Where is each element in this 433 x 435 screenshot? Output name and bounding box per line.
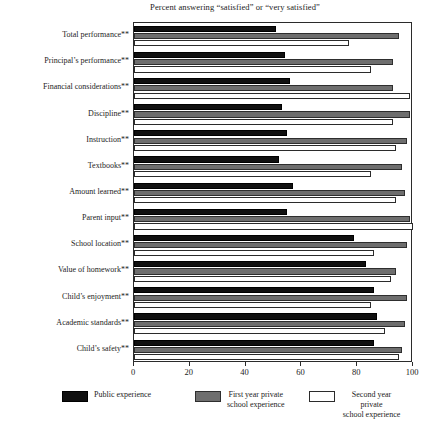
- category-axis-labels: Total performance**Principal’s performan…: [0, 22, 129, 362]
- bar: [134, 156, 279, 162]
- bar: [134, 59, 393, 65]
- x-tick-mark: [133, 362, 134, 366]
- bar: [134, 138, 407, 144]
- bar: [134, 78, 290, 84]
- bar: [134, 302, 371, 308]
- category-label: Parent input**: [0, 213, 129, 222]
- bar: [134, 145, 396, 151]
- category-label: Amount learned**: [0, 187, 129, 196]
- bar: [134, 313, 377, 319]
- bar-group: [134, 235, 411, 256]
- x-tick-mark: [356, 362, 357, 366]
- bar: [134, 85, 393, 91]
- bar: [134, 197, 396, 203]
- bar: [134, 26, 276, 32]
- bar: [134, 287, 374, 293]
- x-tick-label: 20: [174, 367, 204, 377]
- bar-group: [134, 52, 411, 73]
- x-tick-mark: [245, 362, 246, 366]
- bar: [134, 321, 405, 327]
- bar-group: [134, 287, 411, 308]
- category-label: Total performance**: [0, 30, 129, 39]
- legend-swatch-icon: [62, 391, 88, 402]
- plot-area: [133, 22, 412, 362]
- legend-item[interactable]: Second year private school experience: [309, 390, 402, 420]
- chart-title: Percent answering “satisfied” or “very s…: [110, 2, 360, 12]
- category-label: Textbooks**: [0, 161, 129, 170]
- bar: [134, 164, 402, 170]
- bar: [134, 216, 410, 222]
- bar: [134, 209, 287, 215]
- bar: [134, 40, 349, 46]
- bar: [134, 347, 402, 353]
- x-tick-mark: [189, 362, 190, 366]
- bar: [134, 328, 385, 334]
- x-tick-label: 100: [397, 367, 427, 377]
- bar: [134, 276, 391, 282]
- bar-group: [134, 130, 411, 151]
- bar: [134, 295, 407, 301]
- bar-group: [134, 313, 411, 334]
- legend-label: First year private school experience: [227, 390, 285, 410]
- bar-group: [134, 183, 411, 204]
- chart-root: Percent answering “satisfied” or “very s…: [0, 0, 433, 435]
- legend-label: Public experience: [94, 390, 151, 400]
- bar: [134, 190, 405, 196]
- bar-group: [134, 261, 411, 282]
- bar: [134, 340, 374, 346]
- legend-item[interactable]: Public experience: [62, 390, 151, 402]
- bar: [134, 171, 371, 177]
- category-label: Child’s enjoyment**: [0, 292, 129, 301]
- category-label: Financial considerations**: [0, 82, 129, 91]
- bar: [134, 119, 393, 125]
- x-tick-mark: [412, 362, 413, 366]
- bar: [134, 66, 371, 72]
- bar: [134, 354, 399, 360]
- legend-label: Second year private school experience: [341, 390, 402, 420]
- category-label: Academic standards**: [0, 318, 129, 327]
- category-label: Principal’s performance**: [0, 56, 129, 65]
- bar-group: [134, 209, 411, 230]
- bar: [134, 52, 285, 58]
- bar: [134, 130, 287, 136]
- x-tick-label: 40: [230, 367, 260, 377]
- category-label: School location**: [0, 239, 129, 248]
- bar: [134, 33, 399, 39]
- bar-group: [134, 340, 411, 361]
- legend-swatch-icon: [309, 391, 335, 402]
- category-label: Discipline**: [0, 109, 129, 118]
- bar: [134, 261, 366, 267]
- category-label: Instruction**: [0, 135, 129, 144]
- chart-legend: Public experienceFirst year private scho…: [62, 390, 402, 424]
- x-tick-mark: [300, 362, 301, 366]
- x-tick-label: 0: [118, 367, 148, 377]
- bar: [134, 250, 374, 256]
- bar: [134, 223, 413, 229]
- bar-group: [134, 78, 411, 99]
- legend-item[interactable]: First year private school experience: [195, 390, 285, 410]
- bars-layer: [134, 23, 411, 361]
- legend-swatch-icon: [195, 391, 221, 402]
- bar-group: [134, 156, 411, 177]
- bar: [134, 183, 293, 189]
- category-label: Child’s safety**: [0, 344, 129, 353]
- x-tick-label: 80: [341, 367, 371, 377]
- bar: [134, 93, 410, 99]
- bar: [134, 235, 354, 241]
- bar: [134, 111, 410, 117]
- category-label: Value of homework**: [0, 265, 129, 274]
- bar-group: [134, 26, 411, 47]
- bar: [134, 268, 396, 274]
- x-tick-label: 60: [285, 367, 315, 377]
- bar-group: [134, 104, 411, 125]
- bar: [134, 104, 282, 110]
- x-axis: 020406080100: [133, 362, 412, 384]
- bar: [134, 242, 407, 248]
